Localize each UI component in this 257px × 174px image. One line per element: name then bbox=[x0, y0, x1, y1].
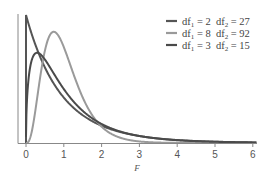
legend: df1 = 2 df2 = 27df1 = 8 df2 = 92df1 = 3 … bbox=[166, 16, 250, 53]
x-tick-label: 2 bbox=[99, 149, 105, 160]
curve-df1-3-df2-15 bbox=[26, 53, 256, 143]
legend-label: df1 = 3 df2 = 15 bbox=[182, 40, 250, 53]
x-tick-label: 4 bbox=[174, 149, 180, 160]
x-tick-label: 6 bbox=[250, 149, 256, 160]
x-axis-title: F bbox=[133, 163, 140, 173]
x-ticks: 0123456 bbox=[23, 144, 256, 161]
x-tick-label: 0 bbox=[23, 149, 29, 160]
x-tick-label: 3 bbox=[137, 149, 143, 160]
f-distribution-chart: 0123456 F df1 = 2 df2 = 27df1 = 8 df2 = … bbox=[0, 0, 257, 174]
x-tick-label: 1 bbox=[61, 149, 67, 160]
x-tick-label: 5 bbox=[212, 149, 218, 160]
